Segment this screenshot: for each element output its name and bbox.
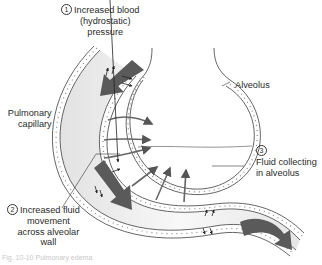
- label-increased-blood-pressure: 1Increased blood (hydrostatic) pressure: [61, 5, 139, 37]
- step-1-badge: 1: [61, 4, 72, 15]
- figure-caption: Fig. 10-10 Pulmonary edema: [2, 254, 92, 261]
- label-pulmonary-capillary: Pulmonary capillary: [4, 108, 52, 129]
- label-increased-fluid-movement: 2Increased fluid movement across alveola…: [7, 205, 80, 248]
- label-alveolus: Alveolus: [235, 80, 270, 91]
- label-fluid-collecting: 3 Fluid collecting in alveolus: [256, 146, 317, 178]
- step-2-badge: 2: [7, 204, 18, 215]
- step-3-badge: 3: [256, 145, 267, 156]
- pulmonary-edema-diagram: 1Increased blood (hydrostatic) pressure …: [0, 0, 322, 265]
